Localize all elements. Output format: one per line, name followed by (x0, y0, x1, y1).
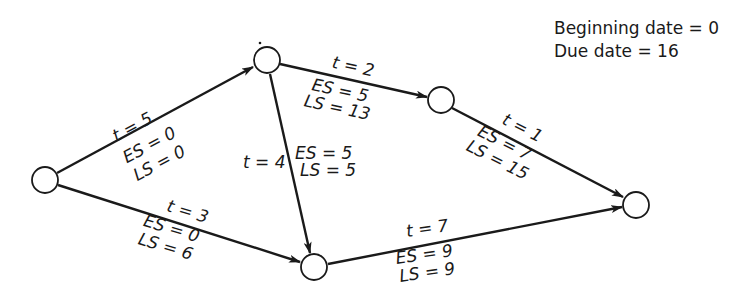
edge-4-5-duration: t = 7 (405, 215, 450, 241)
edge-4-5-arrow (328, 207, 622, 264)
pert-network-diagram: t = 5 ES = 0 LS = 0 t = 2 ES = 5 LS = 13… (0, 0, 731, 305)
node-4 (301, 254, 327, 280)
node-3 (428, 87, 454, 113)
edge-2-4-duration: t = 4 (243, 152, 286, 172)
node-2-mark (259, 42, 262, 45)
edge-2-4-ls: LS = 5 (300, 160, 356, 180)
node-1 (32, 167, 58, 193)
node-2 (254, 47, 280, 73)
beginning-date-label: Beginning date = 0 (554, 18, 719, 38)
due-date-label: Due date = 16 (554, 41, 679, 61)
node-5 (623, 192, 649, 218)
